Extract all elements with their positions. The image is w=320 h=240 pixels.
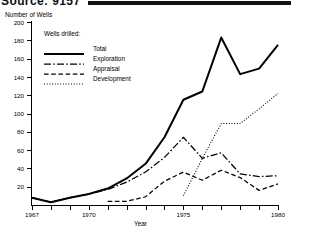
- legend-swatch-icon: [44, 54, 84, 62]
- legend-label: Exploration: [93, 55, 125, 62]
- legend-item-total[interactable]: Total: [44, 43, 131, 53]
- legend-label: Appraisal: [93, 65, 120, 72]
- legend-label: Total: [93, 45, 107, 52]
- legend-swatch-icon: [44, 64, 84, 72]
- legend-item-exploration[interactable]: Exploration: [44, 53, 131, 63]
- legend-item-development[interactable]: Development: [44, 73, 131, 83]
- legend-swatch-icon: [44, 44, 84, 52]
- legend-swatch-icon: [44, 74, 84, 82]
- series-line-appraisal: [108, 170, 278, 201]
- legend-label: Development: [93, 75, 131, 82]
- series-line-exploration: [32, 137, 278, 202]
- series-line-development: [183, 93, 278, 195]
- legend-title: Wells drilled:: [44, 30, 131, 37]
- chart-legend: Wells drilled: TotalExplorationAppraisal…: [44, 30, 131, 83]
- legend-item-appraisal[interactable]: Appraisal: [44, 63, 131, 73]
- legend-rows: TotalExplorationAppraisalDevelopment: [44, 43, 131, 83]
